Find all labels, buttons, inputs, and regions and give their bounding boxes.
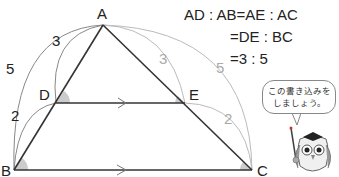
label-ec-length: 2 <box>224 110 232 127</box>
label-a: A <box>97 5 107 22</box>
label-ad-length: 3 <box>52 32 60 49</box>
label-c: C <box>257 162 268 177</box>
speech-bubble-tail <box>292 113 301 125</box>
equation-line-2: =DE : BC <box>230 28 293 46</box>
label-ae-length: 3 <box>159 50 167 67</box>
label-e: E <box>189 86 199 103</box>
label-db-length: 2 <box>11 107 19 124</box>
owl-mascot-icon <box>290 127 331 172</box>
label-ab-length: 5 <box>6 60 14 77</box>
equation-line-3: =3 : 5 <box>230 50 268 68</box>
speech-text-line-1: この書き込みを <box>263 85 335 97</box>
equation-line-1: AD : AB=AE : AC <box>184 6 298 24</box>
label-b: B <box>1 162 11 177</box>
label-ac-length: 5 <box>216 59 224 76</box>
speech-text-line-2: しましょう。 <box>263 97 335 109</box>
speech-bubble: この書き込みを しましょう。 <box>262 80 336 114</box>
label-d: D <box>39 86 50 103</box>
side-ac <box>103 25 252 170</box>
